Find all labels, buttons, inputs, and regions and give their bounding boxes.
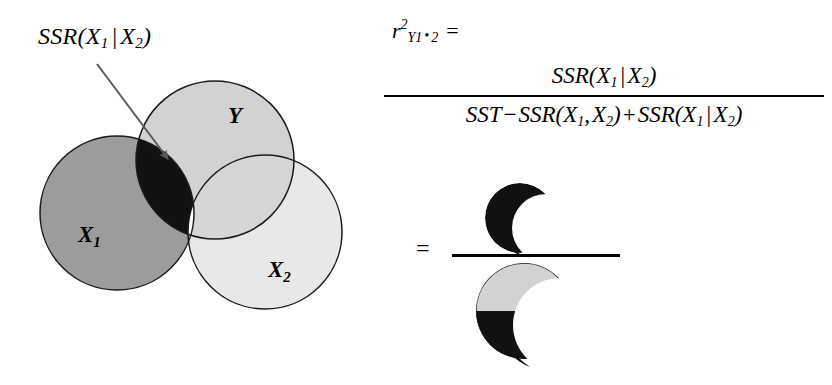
r-subscript: Y1 <box>408 30 423 45</box>
equals-sign-primary: = <box>438 18 458 43</box>
den-term3-separator: | <box>705 102 711 127</box>
venn-label-Y: Y <box>228 104 242 127</box>
ssr-callout-var2: X <box>120 23 135 49</box>
r-subscript-dot: • <box>422 28 431 43</box>
num-separator: | <box>619 63 625 88</box>
ssr-callout-var2-sub: 2 <box>135 35 143 51</box>
ssr-callout-close-paren: ) <box>143 23 151 49</box>
den-term2-var1: X <box>563 102 577 127</box>
fraction-numerator: SSR(X1 | X2) <box>384 62 824 95</box>
venn-diagram-graphic <box>0 0 380 385</box>
den-term3-close: ) <box>735 102 743 127</box>
equals-sign-pictorial: = <box>416 235 430 262</box>
den-operator-plus: + <box>621 102 638 127</box>
fraction-denominator: SST−SSR(X1, X2)+SSR(X1 | X2) <box>384 97 824 131</box>
equation-left-hand-side: r2Y1•2= <box>392 18 459 45</box>
equals-sign-pictorial-text: = <box>416 235 430 261</box>
num-var2: X <box>628 63 642 88</box>
ssr-callout-var1: X <box>86 23 101 49</box>
den-term3-var1-sub: 1 <box>696 114 703 129</box>
den-term3-var1: X <box>682 102 696 127</box>
ssr-callout-label: SSR(X1 | X2) <box>38 24 151 51</box>
formula-panel: r2Y1•2= SSR(X1 | X2) SST−SSR(X1, X2)+SSR… <box>378 0 832 385</box>
venn-label-X1-sub: 1 <box>93 234 101 250</box>
den-term2-close: ) <box>613 102 621 127</box>
crescent-black-icon <box>480 182 566 258</box>
venn-label-X2-sub: 2 <box>283 269 291 285</box>
venn-label-X1-text: X <box>78 222 93 247</box>
pictorial-numerator <box>452 180 624 254</box>
ssr-callout-var1-sub: 1 <box>101 35 109 51</box>
r-symbol: r <box>392 18 401 43</box>
num-var1: X <box>596 63 610 88</box>
venn-label-X2-text: X <box>268 257 283 282</box>
pictorial-denominator <box>452 257 624 369</box>
figure-canvas: SSR(X1 | X2) Y X1 X2 r2Y1•2= SSR(X1 | X2… <box>0 0 832 385</box>
den-term3-var2: X <box>714 102 728 127</box>
num-close-paren: ) <box>649 63 657 88</box>
ssr-callout-prefix: SSR <box>38 23 78 49</box>
den-term3-var2-sub: 2 <box>728 114 735 129</box>
ssr-callout-open-paren: ( <box>78 23 86 49</box>
num-var1-sub: 1 <box>610 75 617 90</box>
venn-label-X2: X2 <box>268 258 291 285</box>
ssr-callout-separator: | <box>111 23 118 49</box>
venn-label-X1: X1 <box>78 223 101 250</box>
den-term2-var2: X <box>592 102 606 127</box>
crescent-two-tone-icon <box>472 259 596 369</box>
pictorial-fraction <box>452 180 624 369</box>
num-var2-sub: 2 <box>642 75 649 90</box>
num-prefix: SSR <box>552 63 589 88</box>
venn-label-Y-text: Y <box>228 103 242 128</box>
r-superscript: 2 <box>401 17 408 32</box>
den-term2-prefix: SSR <box>518 102 555 127</box>
den-term1: SST <box>466 102 502 127</box>
den-term3-prefix: SSR <box>638 102 675 127</box>
den-term2-comma: , <box>584 102 590 127</box>
den-term2-var2-sub: 2 <box>606 114 613 129</box>
main-fraction: SSR(X1 | X2) SST−SSR(X1, X2)+SSR(X1 | X2… <box>384 62 824 130</box>
den-operator-minus: − <box>501 102 518 127</box>
venn-diagram-panel: SSR(X1 | X2) Y X1 X2 <box>0 0 380 385</box>
